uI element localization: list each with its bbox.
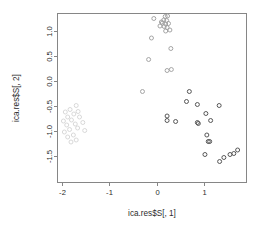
y-axis-title: ica.res$S[, 2] xyxy=(12,74,21,122)
x-axis-title: ica.res$S[, 1] xyxy=(128,209,176,218)
figure-background xyxy=(0,0,261,230)
plot-canvas: -2-101 1.00.50.0-0.5-1.0-1.5 ica.res$S[,… xyxy=(0,0,261,230)
y-tick-label: -1.5 xyxy=(45,150,54,163)
scatter-plot-figure: -2-101 1.00.50.0-0.5-1.0-1.5 ica.res$S[,… xyxy=(0,0,261,230)
y-tick-label: 0.0 xyxy=(45,76,54,87)
y-tick-label: -0.5 xyxy=(45,100,54,113)
y-tick-label: -1.0 xyxy=(45,125,54,138)
x-tick-label: 1 xyxy=(202,188,206,197)
y-tick-label: 1.0 xyxy=(45,26,54,37)
y-tick-label: 0.5 xyxy=(45,51,54,62)
x-tick-label: -2 xyxy=(59,188,66,197)
x-tick-label: 0 xyxy=(155,188,159,197)
x-tick-label: -1 xyxy=(106,188,113,197)
